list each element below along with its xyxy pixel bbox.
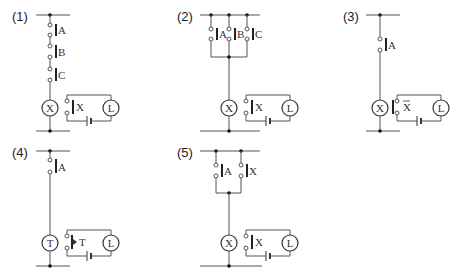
svg-text:X: X (46, 102, 54, 114)
relay-coil-x: X (42, 100, 58, 116)
svg-text:L: L (438, 102, 445, 114)
timer-arrow-icon (73, 239, 77, 245)
svg-text:X: X (255, 236, 263, 248)
panel-4: (4) A T T L (12, 145, 119, 268)
panel-1: (1) A B C X (12, 9, 119, 133)
svg-text:X: X (76, 101, 84, 113)
svg-text:C: C (58, 69, 65, 81)
panel-3: (3) A X X L (343, 9, 449, 133)
svg-text:X: X (376, 102, 384, 114)
svg-text:X: X (225, 102, 233, 114)
svg-text:A: A (58, 161, 66, 173)
panel-label: (5) (177, 145, 193, 160)
svg-text:B: B (237, 28, 244, 40)
panel-2: (2) A B C X (177, 9, 298, 133)
switch-b: B (48, 44, 65, 59)
svg-text:C: C (255, 28, 262, 40)
svg-text:T: T (47, 237, 54, 249)
svg-text:X: X (249, 165, 257, 177)
panel-label: (1) (12, 9, 28, 24)
svg-text:X: X (255, 101, 263, 113)
switch-c: C (48, 67, 65, 82)
svg-text:A: A (58, 24, 66, 36)
svg-text:L: L (287, 237, 294, 249)
svg-text:X: X (403, 101, 411, 113)
svg-text:T: T (79, 236, 86, 248)
relay-circuit-diagrams: (1) A B C X (0, 0, 462, 276)
svg-text:L: L (108, 102, 115, 114)
panel-label: (2) (177, 9, 193, 24)
switch-a: A (48, 23, 66, 37)
svg-text:L: L (108, 237, 115, 249)
svg-text:A: A (224, 165, 232, 177)
svg-text:B: B (58, 46, 65, 58)
svg-text:X: X (225, 237, 233, 249)
panel-label: (4) (12, 145, 28, 160)
svg-text:A: A (219, 28, 227, 40)
svg-text:A: A (388, 39, 396, 51)
panel-5: (5) A X X X (177, 145, 298, 268)
panel-label: (3) (343, 9, 359, 24)
svg-text:L: L (287, 102, 294, 114)
output-circuit: X L (65, 95, 119, 126)
